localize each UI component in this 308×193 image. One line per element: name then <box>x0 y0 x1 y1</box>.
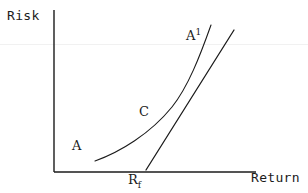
y-axis-label: Risk <box>7 8 40 23</box>
tangent-line-a1-path <box>146 30 234 170</box>
tangent-line-a1-label: A1 <box>186 28 201 43</box>
x-axis-label: Return <box>251 170 300 185</box>
curve-c-label: C <box>139 104 149 119</box>
risk-free-rate-label: Rf <box>128 172 141 187</box>
diagram-canvas <box>0 0 308 193</box>
risk-return-diagram: Risk Return A C A1 Rf <box>0 0 308 193</box>
tangent-line-a1-label-superscript: 1 <box>195 27 201 37</box>
curve-a-label: A <box>72 138 81 153</box>
risk-free-rate-label-subscript: f <box>138 180 141 190</box>
risk-free-rate-label-base: R <box>128 172 138 187</box>
curve-a-path <box>95 25 211 161</box>
tangent-line-a1-label-base: A <box>186 28 195 43</box>
